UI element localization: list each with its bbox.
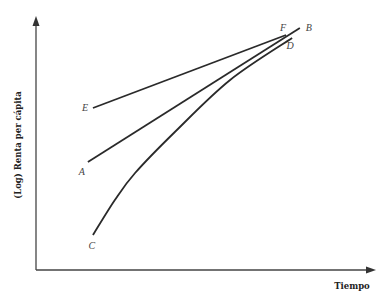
label-start-c: C [89,240,96,251]
x-axis-arrow-icon [366,267,376,274]
chart: (Log) Renta per cápita Tiempo EFABCD [0,0,392,304]
label-end-b: B [306,22,312,33]
label-end-d: D [286,40,295,51]
label-start-a: A [78,166,86,177]
label-end-f: F [279,22,287,33]
series-layer: EFABCD [78,22,312,251]
axes [33,16,377,274]
series-line-a-b [88,28,300,162]
series-line-c-d [93,38,292,235]
y-axis-label: (Log) Renta per cápita [13,91,23,199]
y-axis-arrow-icon [33,16,40,26]
x-axis-label: Tiempo [334,281,370,291]
label-start-e: E [81,102,88,113]
